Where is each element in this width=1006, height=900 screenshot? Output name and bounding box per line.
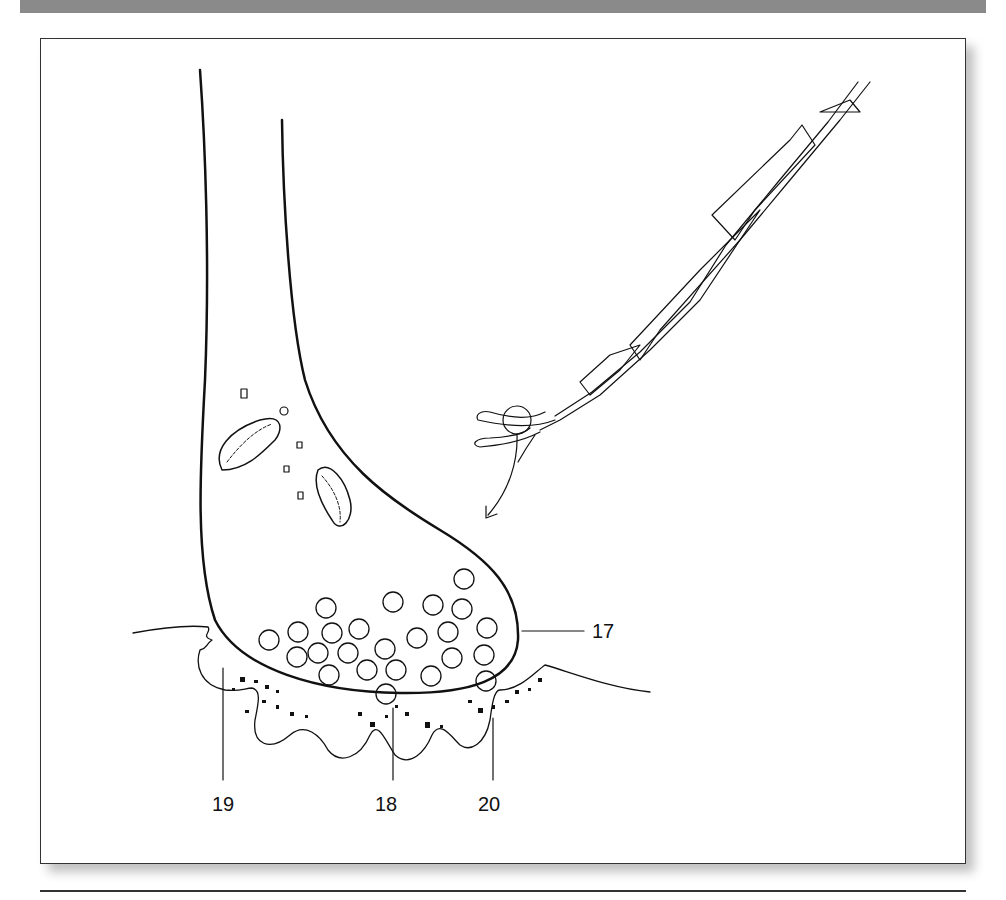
label-20: 20 — [478, 793, 500, 816]
synaptic-vesicles — [259, 569, 497, 704]
axon-terminal-outline — [200, 70, 518, 693]
label-17: 17 — [592, 620, 614, 643]
inset-neuron — [475, 82, 870, 518]
mitochondrion — [316, 467, 351, 526]
label-18: 18 — [375, 793, 397, 816]
bottom-rule — [40, 890, 966, 892]
synapse-diagram — [0, 0, 1006, 900]
mitochondrion — [219, 418, 280, 470]
label-19: 19 — [212, 793, 234, 816]
